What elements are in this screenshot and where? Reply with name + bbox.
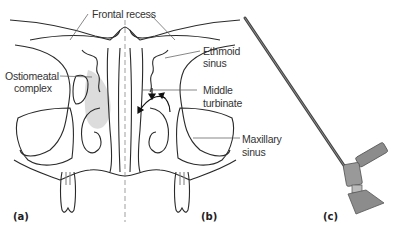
airflow-arrow-up bbox=[162, 96, 170, 112]
endoscope-eyepiece bbox=[348, 190, 384, 214]
label-maxillary-line1: Maxillary bbox=[242, 133, 282, 145]
endoscope bbox=[245, 18, 388, 214]
right-middle-turbinate bbox=[149, 108, 168, 153]
right-tooth bbox=[175, 172, 190, 212]
figure: Frontal recess Ostiomeatal complex Ethmo… bbox=[0, 0, 409, 229]
label-maxillary-line2: sinus bbox=[242, 146, 266, 158]
label-middle-turbinate-line1: Middle bbox=[203, 84, 233, 96]
ostiomeatal-shade bbox=[85, 70, 111, 129]
sinus-anatomy-diagram bbox=[0, 0, 409, 229]
label-ostiomeatal-line2: complex bbox=[14, 82, 52, 94]
left-maxillary bbox=[16, 108, 73, 165]
right-tooth-root bbox=[180, 172, 184, 185]
left-orbit-wall bbox=[15, 45, 70, 156]
left-tooth bbox=[61, 172, 76, 212]
label-ostiomeatal-line1: Ostiomeatal bbox=[5, 70, 59, 82]
label-ethmoid-line1: Ethmoid bbox=[203, 45, 240, 57]
septum-right bbox=[130, 48, 132, 172]
label-frontal-recess: Frontal recess bbox=[92, 8, 156, 20]
left-tooth-root bbox=[66, 172, 70, 185]
endoscope-light-port bbox=[355, 142, 388, 168]
panel-label-b: (b) bbox=[201, 211, 217, 222]
leader-ethmoid bbox=[165, 51, 200, 58]
right-ethmoid-cells bbox=[150, 50, 168, 92]
panel-label-a: (a) bbox=[13, 211, 29, 222]
panel-label-c: (c) bbox=[323, 211, 338, 222]
septum-left bbox=[119, 48, 121, 172]
label-ethmoid-line2: sinus bbox=[203, 57, 227, 69]
right-maxillary bbox=[177, 108, 234, 165]
label-middle-turbinate-line2: turbinate bbox=[203, 97, 242, 109]
